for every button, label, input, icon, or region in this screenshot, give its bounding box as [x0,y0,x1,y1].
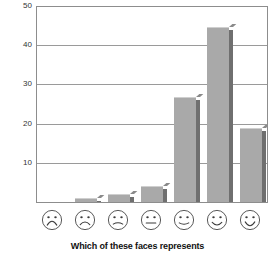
y-axis-tick-labels: 50 40 30 20 10 [12,0,34,210]
y-tick-30: 30 [23,80,32,88]
big-smile-face-icon [238,208,262,232]
bar-side [229,30,233,204]
bars-layer [37,7,267,202]
sad-face-icon [73,208,97,232]
very-sad-face-icon [40,208,64,232]
bar-smile-face [207,27,229,203]
bar-face [141,186,163,202]
y-tick-20: 20 [23,120,32,128]
bar-side [97,201,101,203]
bar-top [196,94,203,97]
bar-big-smile-face [240,128,262,202]
y-tick-10: 10 [23,159,32,167]
bar-top [97,195,104,198]
bar-face [75,198,97,202]
bar-side [262,131,266,203]
bar-slight-smile-face [174,97,196,202]
bar-top [262,125,268,128]
bar-face [174,97,196,202]
x-axis-title: Which of these faces represents [0,241,275,251]
plot-area [36,6,268,203]
bar-face [240,128,262,202]
bar-top [229,24,236,27]
bar-face [108,194,130,202]
smile-face-icon [205,208,229,232]
x-axis-face-labels [36,206,268,236]
bar-side [163,189,167,203]
y-tick-40: 40 [23,41,32,49]
bar-sad-face [75,198,97,202]
neutral-face-icon [139,208,163,232]
bar-chart: Percent 50 40 30 20 10 Which of these fa… [0,0,275,260]
slight-smile-face-icon [172,208,196,232]
y-tick-50: 50 [23,2,32,10]
slightly-sad-face-icon [106,208,130,232]
bar-side [196,100,200,203]
bar-neutral-face [141,186,163,202]
bar-side [130,197,134,203]
bar-top [130,191,137,194]
bar-top [163,183,170,186]
bar-face [207,27,229,203]
bar-slightly-sad-face [108,194,130,202]
